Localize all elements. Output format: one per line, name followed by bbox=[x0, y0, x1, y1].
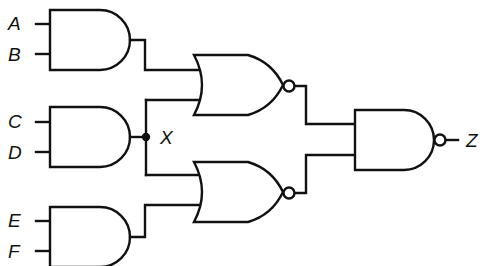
input-label-a: A bbox=[7, 13, 21, 34]
input-label-c: C bbox=[8, 111, 22, 132]
nand-gate bbox=[355, 110, 434, 170]
logic-circuit-diagram: A B C D E F X Z bbox=[0, 0, 491, 266]
nor-gate-1 bbox=[194, 55, 283, 115]
node-label-x: X bbox=[159, 127, 174, 148]
input-label-b: B bbox=[8, 44, 21, 65]
nand-inversion-bubble bbox=[435, 135, 446, 146]
input-label-d: D bbox=[8, 142, 22, 163]
junction-dot-x bbox=[142, 133, 150, 141]
wire-nor1-nand bbox=[295, 86, 355, 124]
nor1-inversion-bubble bbox=[284, 81, 295, 92]
and-gate-3 bbox=[50, 207, 130, 266]
output-label-z: Z bbox=[465, 130, 479, 151]
nor-gate-2 bbox=[194, 162, 283, 222]
and-gate-2 bbox=[50, 107, 130, 167]
input-label-e: E bbox=[8, 210, 21, 231]
wire-nor2-nand bbox=[295, 155, 355, 193]
input-wires bbox=[36, 24, 50, 251]
nor2-inversion-bubble bbox=[284, 188, 295, 199]
input-label-f: F bbox=[8, 241, 21, 262]
and-gate-1 bbox=[50, 10, 130, 70]
